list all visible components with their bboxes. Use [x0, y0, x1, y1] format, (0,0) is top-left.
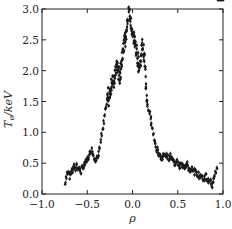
data-point — [102, 127, 104, 129]
data-point — [141, 38, 143, 40]
data-point — [126, 26, 128, 28]
data-point — [116, 71, 118, 73]
data-point — [118, 80, 120, 82]
data-point — [209, 179, 211, 181]
data-point — [136, 48, 138, 50]
x-tick-label: 0.0 — [124, 198, 141, 210]
data-point — [133, 31, 135, 33]
data-point — [204, 173, 206, 175]
data-point — [104, 114, 106, 116]
data-point — [173, 161, 175, 163]
data-point — [126, 23, 128, 25]
data-point — [64, 183, 66, 185]
y-tick-label: 1.0 — [22, 126, 39, 138]
data-point — [74, 169, 76, 171]
data-point — [125, 29, 127, 31]
data-point — [114, 74, 116, 76]
data-point — [141, 49, 143, 51]
y-tick-label: 1.5 — [22, 96, 39, 108]
data-point — [113, 86, 115, 88]
data-point — [100, 132, 102, 134]
data-point — [126, 18, 128, 20]
data-point — [145, 75, 147, 77]
data-point — [213, 174, 215, 176]
data-point — [153, 139, 155, 141]
data-point — [65, 176, 67, 178]
data-point — [146, 99, 148, 101]
data-point — [125, 35, 127, 37]
data-point — [197, 171, 199, 173]
x-tick-label: 0.5 — [169, 198, 186, 210]
data-point — [107, 99, 109, 101]
data-point — [152, 133, 154, 135]
data-point — [145, 87, 147, 89]
x-tick-label: 1.0 — [215, 198, 232, 210]
data-point — [139, 60, 141, 62]
data-point — [195, 171, 197, 173]
data-point — [106, 103, 108, 105]
data-point — [109, 93, 111, 95]
scatter-chart: −1.0−0.50.00.51.0 0.00.51.01.52.02.53.0 … — [0, 0, 232, 229]
x-axis-ticks: −1.0−0.50.00.51.0 — [29, 9, 231, 210]
data-point — [69, 178, 71, 180]
data-point — [118, 66, 120, 68]
data-point — [114, 77, 116, 79]
data-point — [150, 116, 152, 118]
data-point — [215, 172, 217, 174]
data-point — [102, 120, 104, 122]
data-points — [64, 0, 225, 189]
y-tick-label: 0.0 — [22, 188, 39, 200]
data-point — [151, 127, 153, 129]
data-point — [129, 20, 131, 22]
data-point — [137, 51, 139, 53]
data-point — [148, 113, 150, 115]
data-point — [100, 138, 102, 140]
data-point — [101, 135, 103, 137]
data-point — [129, 17, 131, 19]
data-point — [134, 41, 136, 43]
data-point — [169, 152, 171, 154]
data-point — [123, 49, 125, 51]
data-point — [91, 151, 93, 153]
data-point — [211, 186, 213, 188]
data-point — [216, 166, 218, 168]
data-point — [91, 147, 93, 149]
data-point — [140, 65, 142, 67]
data-point — [124, 45, 126, 47]
data-point — [131, 28, 133, 30]
data-point — [118, 74, 120, 76]
data-point — [110, 89, 112, 91]
data-point — [89, 152, 91, 154]
data-point — [146, 103, 148, 105]
data-point — [119, 72, 121, 74]
data-point — [97, 154, 99, 156]
y-tick-label: 3.0 — [22, 3, 39, 15]
y-tick-label: 2.5 — [22, 34, 39, 46]
data-point — [84, 164, 86, 166]
data-point — [120, 76, 122, 78]
data-point — [136, 44, 138, 46]
x-tick-label: −0.5 — [75, 198, 101, 210]
data-point — [103, 122, 105, 124]
data-point — [183, 167, 185, 169]
data-point — [149, 110, 151, 112]
data-point — [179, 167, 181, 169]
y-tick-label: 2.0 — [22, 65, 39, 77]
x-axis-label: ρ — [128, 212, 136, 225]
data-point — [137, 56, 139, 58]
data-point — [150, 124, 152, 126]
data-point — [121, 65, 123, 67]
data-point — [143, 43, 145, 45]
data-point — [133, 34, 135, 36]
data-point — [200, 175, 202, 177]
data-point — [157, 149, 159, 151]
y-axis-label: Te/keV — [2, 90, 16, 128]
data-point — [80, 172, 82, 174]
data-point — [144, 68, 146, 70]
y-tick-label: 0.5 — [22, 157, 39, 169]
data-point — [145, 83, 147, 85]
data-point — [193, 174, 195, 176]
data-point — [108, 105, 110, 107]
data-point — [154, 142, 156, 144]
data-point — [98, 146, 100, 148]
